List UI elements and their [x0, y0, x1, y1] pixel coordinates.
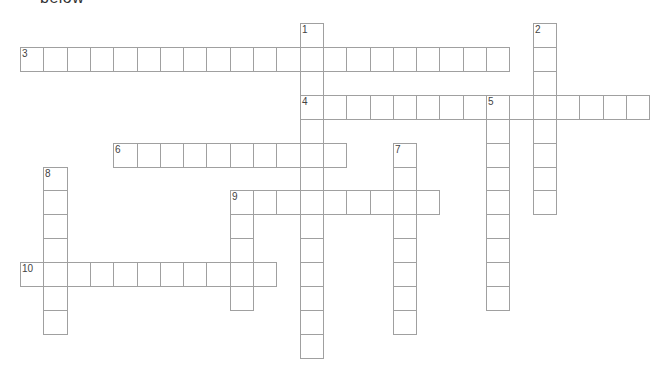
crossword-cell[interactable]: 9 [230, 190, 254, 215]
crossword-cell[interactable] [346, 190, 371, 215]
crossword-cell[interactable] [230, 286, 254, 311]
crossword-cell[interactable] [626, 95, 650, 120]
crossword-cell[interactable] [533, 190, 557, 215]
crossword-cell[interactable]: 6 [113, 143, 138, 168]
crossword-cell[interactable] [43, 310, 68, 335]
crossword-cell[interactable] [346, 47, 371, 72]
crossword-cell[interactable] [579, 95, 604, 120]
crossword-cell[interactable]: 7 [393, 143, 417, 168]
crossword-cell[interactable] [393, 286, 417, 311]
crossword-cell[interactable] [90, 262, 114, 287]
crossword-cell[interactable] [137, 143, 161, 168]
crossword-cell[interactable] [160, 47, 184, 72]
crossword-cell[interactable] [253, 143, 277, 168]
crossword-cell[interactable] [486, 47, 510, 72]
crossword-cell[interactable] [300, 238, 324, 263]
crossword-cell[interactable] [276, 47, 301, 72]
crossword-cell[interactable] [533, 95, 557, 120]
crossword-cell[interactable] [533, 119, 557, 144]
crossword-cell[interactable] [43, 47, 68, 72]
crossword-cell[interactable] [486, 214, 510, 239]
crossword-cell[interactable] [253, 47, 277, 72]
crossword-cell[interactable] [416, 95, 440, 120]
crossword-cell[interactable] [160, 143, 184, 168]
crossword-cell[interactable] [486, 286, 510, 311]
crossword-cell[interactable] [43, 190, 68, 215]
crossword-cell[interactable] [300, 214, 324, 239]
crossword-cell[interactable] [603, 95, 627, 120]
crossword-cell[interactable] [183, 47, 207, 72]
crossword-cell[interactable] [67, 47, 91, 72]
crossword-cell[interactable] [393, 47, 417, 72]
crossword-cell[interactable]: 3 [20, 47, 44, 72]
crossword-cell[interactable] [300, 262, 324, 287]
crossword-cell[interactable] [160, 262, 184, 287]
crossword-cell[interactable] [323, 143, 347, 168]
crossword-cell[interactable] [439, 47, 464, 72]
crossword-cell[interactable] [300, 310, 324, 335]
crossword-cell[interactable] [43, 214, 68, 239]
crossword-cell[interactable] [486, 167, 510, 191]
crossword-cell[interactable] [463, 47, 487, 72]
crossword-cell[interactable] [556, 95, 580, 120]
crossword-cell[interactable] [370, 95, 394, 120]
crossword-cell[interactable] [253, 190, 277, 215]
crossword-cell[interactable] [486, 238, 510, 263]
crossword-cell[interactable] [300, 47, 324, 72]
crossword-cell[interactable] [486, 119, 510, 144]
crossword-cell[interactable] [486, 262, 510, 287]
crossword-cell[interactable] [113, 262, 138, 287]
crossword-cell[interactable] [67, 262, 91, 287]
crossword-cell[interactable] [393, 95, 417, 120]
crossword-cell[interactable] [533, 167, 557, 191]
crossword-cell[interactable] [416, 190, 440, 215]
crossword-cell[interactable] [300, 119, 324, 144]
crossword-cell[interactable] [43, 238, 68, 263]
crossword-cell[interactable] [43, 286, 68, 311]
crossword-cell[interactable] [206, 262, 231, 287]
crossword-cell[interactable] [300, 143, 324, 168]
crossword-cell[interactable]: 1 [300, 23, 324, 48]
crossword-cell[interactable]: 5 [486, 95, 510, 120]
crossword-cell[interactable] [300, 286, 324, 311]
crossword-cell[interactable] [300, 190, 324, 215]
crossword-cell[interactable] [393, 310, 417, 335]
crossword-cell[interactable]: 10 [20, 262, 44, 287]
crossword-cell[interactable] [533, 143, 557, 168]
crossword-cell[interactable] [300, 167, 324, 191]
crossword-cell[interactable] [183, 143, 207, 168]
crossword-cell[interactable] [230, 262, 254, 287]
crossword-cell[interactable] [486, 143, 510, 168]
crossword-cell[interactable] [43, 262, 68, 287]
crossword-cell[interactable] [393, 214, 417, 239]
crossword-cell[interactable] [253, 262, 277, 287]
crossword-cell[interactable] [90, 47, 114, 72]
crossword-cell[interactable] [113, 47, 138, 72]
crossword-cell[interactable] [230, 143, 254, 168]
crossword-cell[interactable] [346, 95, 371, 120]
crossword-cell[interactable] [276, 143, 301, 168]
crossword-cell[interactable] [486, 190, 510, 215]
crossword-cell[interactable] [323, 95, 347, 120]
crossword-cell[interactable] [230, 47, 254, 72]
crossword-cell[interactable] [439, 95, 464, 120]
crossword-cell[interactable]: 4 [300, 95, 324, 120]
crossword-cell[interactable] [463, 95, 487, 120]
crossword-cell[interactable]: 2 [533, 23, 557, 48]
crossword-cell[interactable] [206, 47, 231, 72]
crossword-cell[interactable] [230, 214, 254, 239]
crossword-cell[interactable] [230, 238, 254, 263]
crossword-cell[interactable] [393, 238, 417, 263]
crossword-cell[interactable] [206, 143, 231, 168]
crossword-cell[interactable] [533, 71, 557, 96]
crossword-cell[interactable] [300, 334, 324, 359]
crossword-cell[interactable] [370, 190, 394, 215]
crossword-cell[interactable] [137, 47, 161, 72]
crossword-cell[interactable] [509, 95, 534, 120]
crossword-cell[interactable] [183, 262, 207, 287]
crossword-cell[interactable] [393, 262, 417, 287]
crossword-cell[interactable] [416, 47, 440, 72]
crossword-cell[interactable] [276, 190, 301, 215]
crossword-cell[interactable] [533, 47, 557, 72]
crossword-cell[interactable] [137, 262, 161, 287]
